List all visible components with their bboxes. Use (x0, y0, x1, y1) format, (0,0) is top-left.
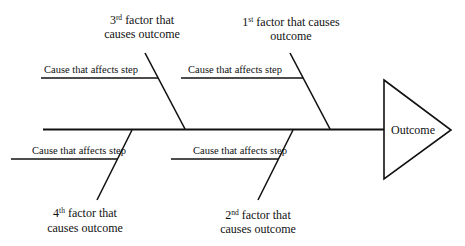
fishbone-diagram: Outcome Cause that affects step 3rd fact… (0, 0, 465, 246)
factor-2-label: 2nd factor that (225, 208, 291, 222)
factor-4-label-line2: causes outcome (47, 221, 123, 235)
factor-4-bone (97, 130, 132, 200)
factor-1-branch: Cause that affects step 1st factor that … (181, 15, 340, 129)
factor-1-label: 1st factor that causes (242, 15, 340, 29)
factor-3-label: 3rd factor that (110, 13, 175, 27)
factor-4-label-line1: factor that (65, 206, 118, 220)
factor-4-label: 4th factor that (53, 206, 117, 220)
factor-3-label-line2: causes outcome (104, 27, 180, 41)
outcome-label: Outcome (391, 123, 435, 137)
outcome-head: Outcome (384, 80, 451, 179)
factor-1-label-line2: outcome (270, 29, 311, 43)
factor-1-cause-label: Cause that affects step (188, 64, 282, 75)
factor-2-bone (258, 130, 293, 200)
factor-2-branch: Cause that affects step 2nd factor that … (171, 130, 296, 236)
factor-3-bone (145, 53, 185, 129)
factor-3-branch: Cause that affects step 3rd factor that … (41, 13, 185, 129)
factor-2-label-line1: factor that (239, 208, 292, 222)
factor-2-label-line2: causes outcome (220, 222, 296, 236)
factor-1-label-line1: factor that causes (253, 15, 340, 29)
factor-3-cause-label: Cause that affects step (44, 64, 138, 75)
factor-3-label-line1: factor that (122, 13, 175, 27)
factor-1-bone (290, 53, 330, 129)
factor-4-cause-label: Cause that affects step (32, 145, 126, 156)
factor-2-cause-label: Cause that affects step (193, 145, 287, 156)
factor-4-branch: Cause that affects step 4th factor that … (11, 130, 132, 235)
